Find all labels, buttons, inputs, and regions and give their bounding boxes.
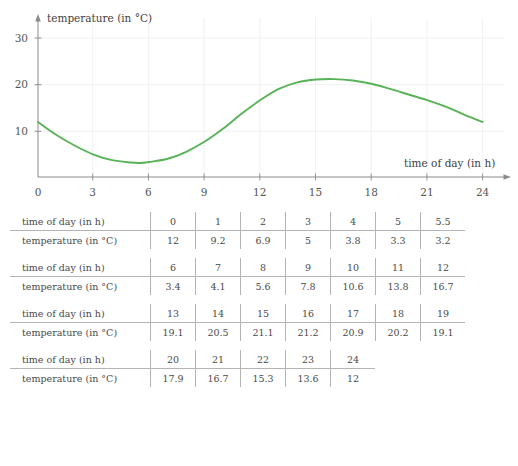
cell-time: 24 <box>331 350 376 369</box>
cell-temp: 21.2 <box>286 323 331 342</box>
table-row: temperature (in °C) 12 9.2 6.9 5 3.8 3.3… <box>10 231 465 250</box>
cell-time: 8 <box>241 258 286 277</box>
x-axis-title: time of day (in h) <box>404 157 495 169</box>
cell-time: 20 <box>151 350 196 369</box>
row-label-time: time of day (in h) <box>10 304 151 323</box>
x-tick-18: 18 <box>365 186 378 198</box>
row-label-time: time of day (in h) <box>10 212 151 231</box>
cell-temp: 15.3 <box>241 369 286 388</box>
cell-time: 17 <box>331 304 376 323</box>
cell-temp: 20.2 <box>376 323 421 342</box>
cell-time: 23 <box>286 350 331 369</box>
cell-time: 14 <box>196 304 241 323</box>
data-table-block-1: time of day (in h) 6 7 8 9 10 11 12 temp… <box>10 258 465 295</box>
cell-time: 11 <box>376 258 421 277</box>
x-tick-24: 24 <box>476 186 490 198</box>
row-label-time: time of day (in h) <box>10 258 151 277</box>
row-label-temp: temperature (in °C) <box>10 231 151 250</box>
cell-temp: 12 <box>331 369 376 388</box>
table-row: time of day (in h) 0 1 2 3 4 5 5.5 <box>10 212 465 231</box>
cell-temp: 3.8 <box>331 231 376 250</box>
cell-temp: 5 <box>286 231 331 250</box>
cell-temp: 4.1 <box>196 277 241 296</box>
table-spacer <box>0 295 518 304</box>
cell-temp: 20.9 <box>331 323 376 342</box>
gridlines <box>38 18 505 177</box>
x-tick-12: 12 <box>253 186 266 198</box>
cell-time: 19 <box>421 304 466 323</box>
data-tables: time of day (in h) 0 1 2 3 4 5 5.5 tempe… <box>0 212 518 387</box>
cell-time: 9 <box>286 258 331 277</box>
cell-temp: 3.4 <box>151 277 196 296</box>
cell-time: 3 <box>286 212 331 231</box>
cell-time: 4 <box>331 212 376 231</box>
cell-time: 12 <box>421 258 466 277</box>
row-label-time: time of day (in h) <box>10 350 151 369</box>
temperature-line-chart: temperature (in °C) time of day (in h) 3… <box>0 0 518 212</box>
cell-time: 0 <box>151 212 196 231</box>
cell-time: 10 <box>331 258 376 277</box>
y-tick-20: 20 <box>15 78 28 90</box>
cell-temp: 19.1 <box>151 323 196 342</box>
chart-svg: temperature (in °C) time of day (in h) 3… <box>0 0 518 212</box>
cell-temp: 19.1 <box>421 323 466 342</box>
table-spacer <box>0 341 518 350</box>
cell-temp: 16.7 <box>421 277 466 296</box>
temperature-curve <box>38 79 483 163</box>
cell-time: 7 <box>196 258 241 277</box>
table-row: time of day (in h) 20 21 22 23 24 <box>10 350 375 369</box>
cell-temp: 13.8 <box>376 277 421 296</box>
table-row: time of day (in h) 6 7 8 9 10 11 12 <box>10 258 465 277</box>
cell-temp: 7.8 <box>286 277 331 296</box>
x-tick-15: 15 <box>309 186 322 198</box>
cell-time: 6 <box>151 258 196 277</box>
cell-time: 13 <box>151 304 196 323</box>
row-label-temp: temperature (in °C) <box>10 277 151 296</box>
y-axis-title: temperature (in °C) <box>47 12 152 24</box>
y-tick-10: 10 <box>15 125 28 137</box>
cell-time: 16 <box>286 304 331 323</box>
x-tick-3: 3 <box>89 186 96 198</box>
table-row: temperature (in °C) 17.9 16.7 15.3 13.6 … <box>10 369 375 388</box>
cell-temp: 6.9 <box>241 231 286 250</box>
table-row: temperature (in °C) 19.1 20.5 21.1 21.2 … <box>10 323 465 342</box>
row-label-temp: temperature (in °C) <box>10 369 151 388</box>
y-tick-30: 30 <box>15 32 28 44</box>
data-table-block-2: time of day (in h) 13 14 15 16 17 18 19 … <box>10 304 465 341</box>
cell-temp: 13.6 <box>286 369 331 388</box>
cell-time: 15 <box>241 304 286 323</box>
cell-time: 1 <box>196 212 241 231</box>
cell-time: 5 <box>376 212 421 231</box>
cell-temp: 16.7 <box>196 369 241 388</box>
cell-temp: 12 <box>151 231 196 250</box>
cell-time: 22 <box>241 350 286 369</box>
x-axis <box>38 174 511 181</box>
cell-temp: 3.2 <box>421 231 466 250</box>
cell-temp: 10.6 <box>331 277 376 296</box>
row-label-temp: temperature (in °C) <box>10 323 151 342</box>
x-tick-21: 21 <box>420 186 433 198</box>
x-tick-6: 6 <box>145 186 152 198</box>
data-table-block-3: time of day (in h) 20 21 22 23 24 temper… <box>10 350 375 387</box>
cell-temp: 5.6 <box>241 277 286 296</box>
y-axis <box>35 14 42 177</box>
table-row: time of day (in h) 13 14 15 16 17 18 19 <box>10 304 465 323</box>
cell-temp: 21.1 <box>241 323 286 342</box>
x-tick-0: 0 <box>35 186 42 198</box>
cell-temp: 3.3 <box>376 231 421 250</box>
table-row: temperature (in °C) 3.4 4.1 5.6 7.8 10.6… <box>10 277 465 296</box>
cell-time: 5.5 <box>421 212 466 231</box>
cell-time: 2 <box>241 212 286 231</box>
data-table-block-0: time of day (in h) 0 1 2 3 4 5 5.5 tempe… <box>10 212 465 249</box>
table-spacer <box>0 249 518 258</box>
cell-time: 21 <box>196 350 241 369</box>
cell-time: 18 <box>376 304 421 323</box>
x-tick-9: 9 <box>201 186 208 198</box>
cell-temp: 17.9 <box>151 369 196 388</box>
cell-temp: 9.2 <box>196 231 241 250</box>
cell-temp: 20.5 <box>196 323 241 342</box>
